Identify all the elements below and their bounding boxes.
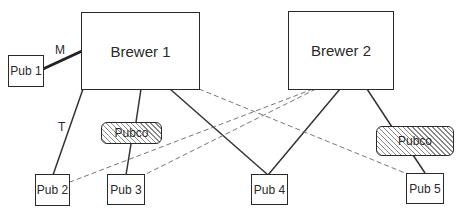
pubco-2-node: Pubco [376,126,454,156]
brewer-2-label: Brewer 2 [311,42,371,59]
brewer-2-node: Brewer 2 [288,11,394,90]
pub-1-node: Pub 1 [8,55,44,87]
pub-3-label: Pub 3 [110,183,141,197]
pub-3-node: Pub 3 [107,174,145,205]
pub-4-node: Pub 4 [251,174,288,205]
brewer-1-node: Brewer 1 [81,12,200,90]
edge-brewer1-pub4 [170,89,268,175]
pub-2-node: Pub 2 [35,174,70,206]
pubco-1-node: Pubco [101,122,162,144]
pub-2-label: Pub 2 [37,183,68,197]
edge-label-m: M [55,43,65,57]
pub-5-label: Pub 5 [409,182,440,196]
brewer-1-label: Brewer 1 [110,43,170,60]
edge-brewer1-pubco1 [136,89,141,122]
pub-5-node: Pub 5 [406,173,444,204]
pubco-2-label: Pubco [398,134,432,148]
pub-1-label: Pub 1 [10,64,41,78]
pubco-1-label: Pubco [114,126,148,140]
edge-pubco1-pub3 [126,144,131,175]
edge-label-t: T [58,120,65,134]
pub-4-label: Pub 4 [254,183,285,197]
edge-brewer2-pubco2 [367,89,392,127]
edge-pubco2-pub5 [413,155,425,173]
